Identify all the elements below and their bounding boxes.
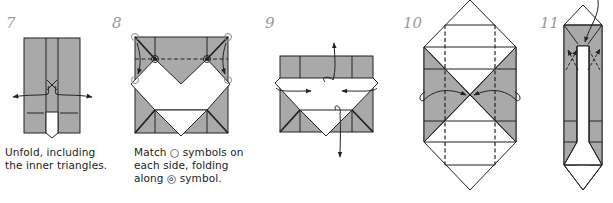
step-number: 7 — [6, 14, 16, 32]
step-7-diagram — [13, 38, 92, 138]
origami-instructions: 7 8 9 10 11 Unfold, including the inner … — [0, 0, 613, 203]
step-10-diagram — [420, 0, 520, 190]
step-9-diagram — [275, 43, 378, 157]
diagram-canvas — [0, 0, 613, 203]
step-number: 10 — [403, 14, 422, 32]
step-number: 11 — [540, 14, 559, 32]
step-number: 9 — [265, 14, 275, 32]
step-11-diagram — [564, 0, 602, 190]
step-7-caption: Unfold, including the inner triangles. — [5, 146, 107, 172]
step-8-caption: Match ○ symbols on each side, folding al… — [134, 146, 243, 185]
step-number: 8 — [112, 14, 122, 32]
step-8-diagram — [131, 34, 232, 137]
